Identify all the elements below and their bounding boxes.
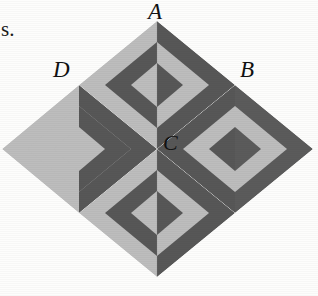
- nested-diamond-figure: [0, 0, 318, 296]
- vertex-label-d: D: [53, 58, 70, 81]
- figure-container: A B C D s.: [0, 0, 318, 296]
- vertex-label-b: B: [240, 58, 254, 81]
- vertex-label-c: C: [163, 132, 178, 154]
- vertex-label-a: A: [148, 0, 162, 23]
- caption-text-fragment: s.: [1, 19, 14, 40]
